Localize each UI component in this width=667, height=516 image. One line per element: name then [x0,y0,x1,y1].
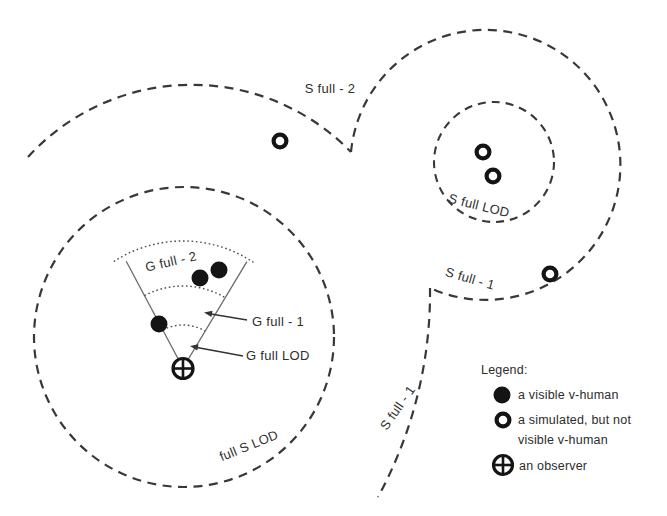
left-lod-system: S full - 2 full S LOD [28,81,355,487]
simulated-vhuman-marker [274,135,287,148]
legend-title: Legend: [481,363,528,377]
legend-item-visible-label: a visible v-human [518,388,619,402]
s-full-1-boundary-arc [351,30,620,300]
s-full-1-left-label: S full - 1 [377,383,418,433]
gaze-cone-left-edge [126,261,183,368]
visible-vhuman-marker [151,316,168,333]
visible-vhuman-marker [192,270,209,287]
gaze-cone: G full - 2 G full - 1 G full LOD [114,241,310,368]
legend-item-simulated-label-line2: visible v-human [518,433,608,447]
visible-vhuman-marker [211,262,228,279]
full-s-lod-circle [34,187,334,487]
s-full-1-right-label: S full - 1 [444,264,497,292]
g-full-lod-arc [163,325,205,331]
lod-diagram: S full - 2 full S LOD G full - 2 G full … [0,0,667,516]
simulated-vhuman-marker [477,146,490,159]
g-full-1-callout: G full - 1 [204,311,304,329]
s-full-2-label: S full - 2 [305,81,356,96]
simulated-vhuman-marker [544,268,557,281]
vhuman-markers [151,135,557,379]
simulated-vhuman-marker [487,170,500,183]
g-full-1-arc [145,286,226,298]
g-full-lod-callout: G full LOD [190,344,310,363]
g-full-lod-arrow-line [197,347,243,356]
s-full-2-boundary-arc [28,85,351,157]
observer-marker [173,359,193,379]
legend: Legend: a visible v-human a simulated, b… [481,363,631,475]
legend-observer-icon [494,456,513,475]
g-full-2-label: G full - 2 [144,248,198,274]
s-full-lod-right-label: S full LOD [447,191,511,221]
g-full-lod-label: G full LOD [246,348,310,363]
scanned-figure-page: S full - 2 full S LOD G full - 2 G full … [0,0,667,516]
legend-open-circle-icon [497,414,510,427]
g-full-1-arrow-head [204,311,213,317]
legend-item-simulated-label-line1: a simulated, but not [518,413,631,427]
legend-filled-circle-icon [494,387,511,404]
legend-item-observer-label: an observer [519,459,587,473]
g-full-1-label: G full - 1 [252,314,304,329]
